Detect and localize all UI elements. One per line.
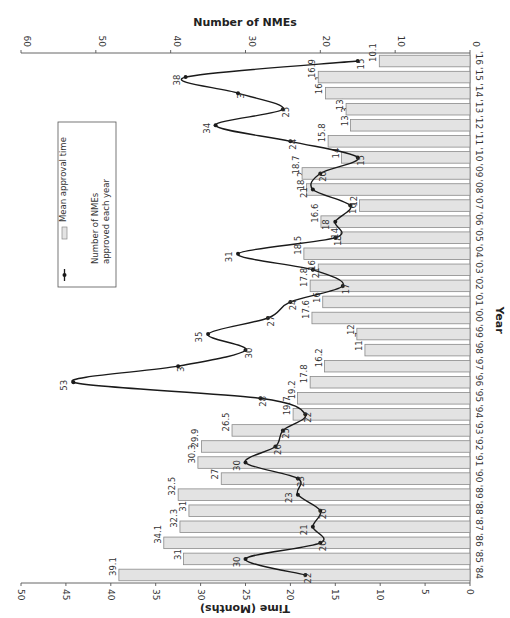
bottom-axis-tick-label: 15 [330, 589, 340, 600]
nme-value-label: 3 [176, 366, 186, 371]
category-tick-label: '95 [474, 388, 484, 402]
bar [325, 87, 470, 99]
nme-point-marker [214, 123, 218, 127]
category-tick-label: '11 [474, 131, 484, 145]
category-tick-label: '13 [474, 99, 484, 113]
nme-value-label: 20 [318, 171, 328, 182]
category-tick-label: '09 [474, 163, 484, 177]
legend-line-label-2: approved each year [101, 178, 111, 264]
category-tick-label: '01 [474, 292, 484, 306]
nme-value-label: 23 [284, 492, 294, 503]
nme-value-label: 23 [296, 476, 306, 487]
bottom-axis-tick-label: 50 [16, 589, 26, 601]
nme-point-marker [244, 557, 248, 561]
nme-value-label: 30 [232, 556, 242, 567]
bar [189, 505, 470, 517]
category-tick-label: '15 [474, 67, 484, 81]
top-axis-tick-label: 40 [172, 36, 182, 48]
top-axis-tick-label: 20 [321, 36, 331, 48]
nme-value-label: 22 [303, 573, 313, 584]
top-axis-tick-label: 30 [247, 36, 257, 48]
bar [346, 103, 470, 115]
category-tick-label: '04 [474, 244, 484, 258]
category-tick-label: '03 [474, 260, 484, 274]
bar [119, 569, 470, 581]
bar [321, 216, 470, 228]
bar [178, 489, 470, 501]
nme-value-label: 28 [258, 396, 268, 407]
bar [325, 360, 470, 372]
nme-value-label: 35 [194, 332, 204, 343]
nme-point-marker [236, 252, 240, 256]
legend: Mean approval time Number of NMEs approv… [58, 122, 116, 287]
bottom-axis-tick-label: 30 [196, 589, 206, 601]
nme-value-label: 25 [281, 107, 291, 118]
nme-value-label: 21 [299, 524, 309, 535]
category-tick-label: '06 [474, 212, 484, 226]
legend-line-marker-icon [63, 273, 67, 277]
nme-value-label: 27 [266, 316, 276, 327]
nme-point-marker [184, 75, 188, 79]
nme-value-label: 17 [341, 283, 351, 294]
bar [357, 328, 470, 340]
bar-value-label: 32.5 [167, 477, 177, 496]
bar-value-label: 16.2 [314, 348, 324, 367]
bar [232, 425, 470, 437]
category-tick-label: '93 [474, 420, 484, 434]
bottom-axis-tick-label: 35 [151, 589, 161, 600]
bar [351, 119, 470, 131]
bar-value-label: 15.8 [317, 123, 327, 142]
bar [328, 136, 470, 148]
category-tick-label: '14 [474, 83, 484, 97]
bar [201, 441, 470, 453]
nme-value-label: 53 [59, 380, 69, 391]
nme-point-marker [311, 188, 315, 192]
bar-value-label: 18.5 [293, 236, 303, 255]
nme-value-label: 15 [356, 59, 366, 70]
bar-value-label: 26.5 [221, 412, 231, 431]
bar [360, 200, 470, 212]
nme-value-label: 22 [303, 412, 313, 423]
bar-value-label: 39.1 [108, 557, 118, 576]
category-tick-label: '00 [474, 308, 484, 322]
category-tick-label: '85 [474, 549, 484, 563]
category-tick-label: '16 [474, 51, 484, 65]
bottom-axis-tick-label: 10 [375, 589, 385, 601]
bar-value-label: 18.7 [291, 156, 301, 175]
bar-value-label: 29.9 [190, 429, 200, 448]
nme-value-label: 34 [202, 123, 212, 134]
bar [307, 184, 470, 196]
nme-value-label: 31 [224, 251, 234, 262]
nme-point-marker [311, 525, 315, 529]
category-tick-label: '87 [474, 517, 484, 531]
bar [184, 553, 470, 565]
bar-value-label: 19.2 [287, 380, 297, 399]
legend-line-label-1: Number of NMEs [90, 192, 100, 264]
nme-value-label: 18 [321, 219, 331, 230]
category-tick-label: '89 [474, 485, 484, 499]
nme-value-label: 25 [281, 428, 291, 439]
bottom-axis-tick-label: 0 [465, 589, 475, 595]
nme-value-label: 24 [288, 300, 298, 311]
category-tick-label: '94 [474, 404, 484, 418]
category-tick-label: '05 [474, 228, 484, 242]
nme-point-marker [71, 380, 75, 384]
nme-value-label: 20 [318, 540, 328, 551]
category-tick-label: '96 [474, 372, 484, 386]
nme-value-label: 24 [288, 139, 298, 150]
nme-value-label: 20 [318, 508, 328, 519]
nme-value-label: 16 [348, 203, 358, 214]
nme-value-label: 3 [236, 93, 246, 98]
bar [379, 55, 470, 67]
category-tick-label: '88 [474, 501, 484, 515]
bar-value-label: 17.6 [301, 300, 311, 319]
category-tick-label: '08 [474, 180, 484, 194]
bar [310, 376, 470, 388]
bar [304, 248, 470, 260]
bar [365, 344, 470, 356]
chart-canvas: 0102030405060Number of NMEs0510152025303… [0, 0, 510, 618]
bar-value-label: 16.9 [307, 59, 317, 78]
bar [323, 296, 470, 308]
bar [298, 393, 470, 405]
top-axis-title: Number of NMEs [193, 16, 297, 29]
